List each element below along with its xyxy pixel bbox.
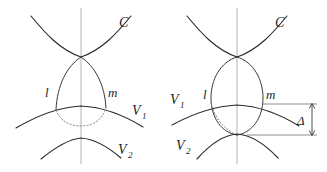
left-curve-v1 [16, 106, 143, 128]
left-label-v1-sub: 1 [142, 111, 147, 121]
left-label-v1-base: V [132, 103, 142, 118]
right-arc-m [237, 57, 263, 135]
left-label-v1: V 1 [132, 103, 147, 121]
left-label-l: l [45, 85, 49, 100]
right-label-v1-base: V [170, 92, 180, 107]
right-label-v2-base: V [176, 138, 186, 153]
left-arc-m [81, 57, 106, 108]
right-label-v2: V 2 [176, 138, 191, 156]
left-label-c: C [119, 15, 129, 30]
left-label-m: m [108, 85, 117, 100]
left-panel: C l m V 1 V 2 [16, 8, 147, 164]
right-label-m: m [266, 87, 275, 102]
right-arc-l [211, 57, 237, 135]
figure-root: C l m V 1 V 2 [0, 0, 327, 172]
right-label-delta: Δ [296, 113, 305, 128]
right-label-l: l [203, 87, 207, 102]
right-label-c: C [275, 15, 285, 30]
right-label-v1: V 1 [170, 92, 185, 110]
right-curve-v1 [172, 105, 299, 126]
left-label-v2-base: V [118, 142, 128, 157]
left-label-v2-sub: 2 [128, 150, 133, 160]
left-arc-l [56, 57, 81, 110]
right-label-v1-sub: 1 [180, 100, 185, 110]
right-label-v2-sub: 2 [186, 146, 191, 156]
diagram-canvas: C l m V 1 V 2 [0, 0, 327, 172]
right-panel: C l m V 1 V 2 Δ [170, 8, 317, 164]
